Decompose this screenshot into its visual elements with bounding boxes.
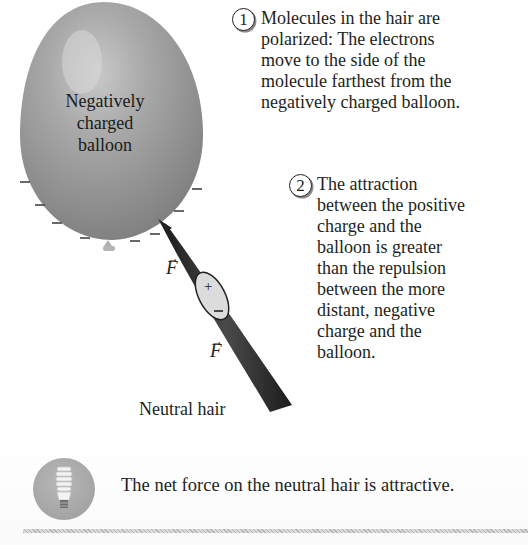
annotation-text: Molecules in the hair are polarized: The… (261, 8, 460, 113)
balloon-label: Negatively charged balloon (40, 90, 170, 156)
lightbulb-icon (33, 458, 95, 520)
positive-charge-symbol: + (204, 278, 212, 294)
force-vector-label-repulsive: → F (210, 341, 222, 360)
vector-arrow-icon: → (211, 332, 223, 351)
summary-callout: The net force on the neutral hair is att… (0, 430, 528, 545)
annotation-text: The attraction between the positive char… (317, 174, 465, 363)
hair-strand: + (158, 219, 292, 412)
force-vector-label-attractive: → F (166, 258, 178, 277)
summary-text: The net force on the neutral hair is att… (121, 474, 454, 496)
polarization-figure: + Negatively charged balloon → F → F Neu… (0, 0, 528, 430)
vector-arrow-icon: → (167, 249, 179, 268)
step-number-badge: 2 (289, 174, 312, 197)
divider (23, 529, 528, 533)
hair-label: Neutral hair (139, 399, 225, 419)
step-number-badge: 1 (232, 8, 255, 31)
